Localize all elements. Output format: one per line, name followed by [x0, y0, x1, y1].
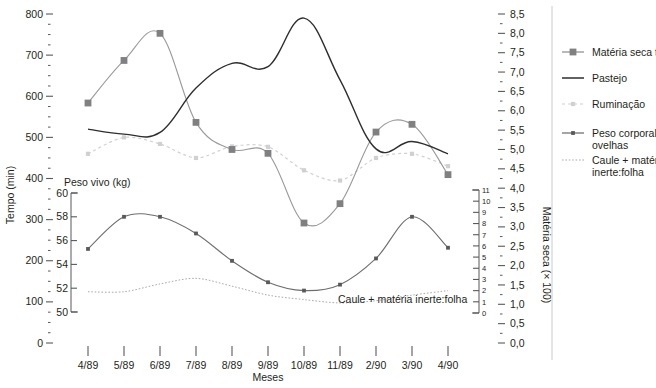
data-point-ruminacao — [338, 178, 342, 182]
data-point-materia-seca-total — [373, 129, 380, 136]
tick-label-peso-vivo: 50 — [56, 306, 68, 318]
tick-label-caule-folha: 0 — [482, 309, 486, 318]
tick-label-materia-seca: 4,5 — [510, 162, 525, 174]
tick-label-month: 4/90 — [438, 359, 459, 371]
legend-square-icon — [570, 49, 577, 56]
tick-label-tempo: 600 — [25, 90, 43, 102]
data-point-materia-seca-total — [445, 171, 452, 178]
data-point-peso-corporal — [446, 246, 450, 250]
legend-item: Caule + matériainerte:folha — [562, 154, 656, 178]
legend-item: Peso corporal dasovelhas — [562, 127, 656, 151]
tick-label-month: 10/89 — [291, 359, 317, 371]
data-point-ruminacao — [122, 135, 126, 139]
data-point-peso-corporal — [122, 215, 126, 219]
tick-label-month: 2/90 — [366, 359, 387, 371]
tick-label-materia-seca: 3,5 — [510, 201, 525, 213]
tick-label-caule-folha: 4 — [482, 264, 486, 273]
tick-label-month: 7/89 — [186, 359, 207, 371]
data-point-materia-seca-total — [121, 57, 128, 64]
tick-label-caule-folha: 7 — [482, 231, 486, 240]
tick-label-tempo: 700 — [25, 49, 43, 61]
tick-label-caule-folha: 9 — [482, 208, 486, 217]
data-point-ruminacao — [158, 142, 162, 146]
series-markers-materia-seca-total — [85, 30, 452, 226]
data-point-peso-corporal — [86, 247, 90, 251]
chart-canvas: 0100200300400500600700800 Tempo (min) 50… — [0, 0, 656, 388]
legend-item-label: ovelhas — [592, 139, 628, 151]
tick-label-materia-seca: 2,5 — [510, 240, 525, 252]
series-markers-peso-corporal — [86, 215, 450, 293]
data-point-ruminacao — [374, 156, 378, 160]
data-point-peso-corporal — [266, 280, 270, 284]
tick-label-tempo: 0 — [37, 337, 43, 349]
legend-item-label: inerte:folha — [592, 166, 644, 178]
series-line-ruminacao — [88, 137, 448, 181]
data-point-materia-seca-total — [301, 220, 308, 227]
tick-label-materia-seca: 4,0 — [510, 182, 525, 194]
tick-label-tempo: 200 — [25, 254, 43, 266]
tick-label-peso-vivo: 54 — [56, 258, 68, 270]
tick-label-materia-seca: 6,5 — [510, 85, 525, 97]
legend-item: Pastejo — [562, 72, 627, 84]
tick-label-materia-seca: 5,0 — [510, 143, 525, 155]
series-line-peso-corporal — [88, 214, 448, 291]
tick-label-caule-folha: 1 — [482, 298, 486, 307]
tick-label-peso-vivo: 52 — [56, 282, 68, 294]
tick-label-month: 6/89 — [150, 359, 171, 371]
tick-label-materia-seca: 6,0 — [510, 104, 525, 116]
tick-label-caule-folha: 6 — [482, 242, 486, 251]
axis-title-peso-vivo: Peso vivo (kg) — [64, 176, 131, 188]
data-point-materia-seca-total — [193, 119, 200, 126]
data-point-peso-corporal — [230, 259, 234, 263]
tick-label-materia-seca: 0,5 — [510, 317, 525, 329]
data-point-materia-seca-total — [229, 146, 236, 153]
tick-label-peso-vivo: 58 — [56, 210, 68, 222]
tick-label-materia-seca: 5,5 — [510, 124, 525, 136]
legend-item: Ruminação — [562, 98, 645, 110]
axis-materia-seca-right-outer: 0,00,51,01,52,02,53,03,54,04,55,05,56,06… — [498, 8, 553, 349]
legend-item-label: Ruminação — [592, 98, 645, 110]
legend-item-label: Peso corporal das — [592, 127, 656, 139]
data-point-ruminacao — [410, 152, 414, 156]
tick-label-tempo: 500 — [25, 131, 43, 143]
tick-label-peso-vivo: 56 — [56, 234, 68, 246]
data-point-ruminacao — [86, 152, 90, 156]
data-point-peso-corporal — [410, 215, 414, 219]
chart-legend: Matéria seca totalPastejoRuminaçãoPeso c… — [562, 46, 656, 178]
tick-label-caule-folha: 5 — [482, 253, 486, 262]
tick-label-caule-folha: 10 — [482, 197, 490, 206]
tick-label-month: 11/89 — [327, 359, 353, 371]
legend-item-label: Caule + matéria — [592, 154, 656, 166]
legend-item-label: Matéria seca total — [592, 46, 656, 58]
data-point-ruminacao — [302, 168, 306, 172]
data-point-materia-seca-total — [157, 30, 164, 37]
data-point-ruminacao — [194, 156, 198, 160]
tick-label-caule-folha: 11 — [482, 186, 490, 195]
tick-label-tempo: 300 — [25, 213, 43, 225]
data-point-peso-corporal — [158, 215, 162, 219]
tick-label-materia-seca: 8,5 — [510, 8, 525, 20]
series-layer — [85, 18, 452, 303]
tick-label-materia-seca: 8,0 — [510, 27, 525, 39]
tick-label-month: 8/89 — [222, 359, 243, 371]
tick-label-materia-seca: 3,0 — [510, 220, 525, 232]
legend-item: Matéria seca total — [562, 46, 656, 58]
chart-container: 0100200300400500600700800 Tempo (min) 50… — [0, 0, 656, 388]
axis-title-tempo: Tempo (min) — [4, 166, 16, 224]
series-markers-ruminacao — [86, 135, 450, 182]
tick-label-month: 4/89 — [78, 359, 99, 371]
tick-label-tempo: 800 — [25, 8, 43, 20]
data-point-materia-seca-total — [337, 200, 344, 207]
tick-label-month: 3/90 — [402, 359, 423, 371]
tick-label-caule-folha: 8 — [482, 219, 486, 228]
tick-label-materia-seca: 0,0 — [510, 337, 525, 349]
axis-caule-right-inner: 01234567891011 — [472, 186, 490, 318]
data-point-peso-corporal — [194, 232, 198, 236]
axis-tempo-left-outer: 0100200300400500600700800 Tempo (min) — [4, 8, 53, 349]
tick-label-tempo: 100 — [25, 295, 43, 307]
axis-peso-left-inner: 505254565860 Peso vivo (kg) — [56, 176, 130, 318]
tick-label-materia-seca: 1,0 — [510, 298, 525, 310]
axis-title-meses: Meses — [253, 371, 284, 383]
data-point-peso-corporal — [374, 257, 378, 261]
legend-item-label: Pastejo — [592, 72, 627, 84]
